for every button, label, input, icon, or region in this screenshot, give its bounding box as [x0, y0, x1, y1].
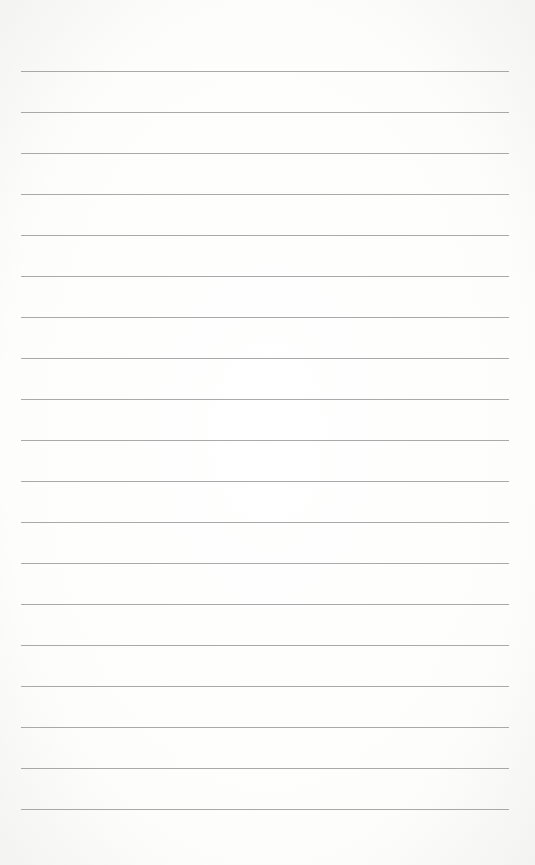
- ruled-line: [21, 481, 509, 482]
- ruled-line: [21, 604, 509, 605]
- ruled-line: [21, 686, 509, 687]
- ruled-line: [21, 645, 509, 646]
- ruled-line: [21, 112, 509, 113]
- ruled-line: [21, 153, 509, 154]
- lined-paper-page: [0, 0, 535, 865]
- ruled-line: [21, 317, 509, 318]
- ruled-line: [21, 768, 509, 769]
- ruled-line: [21, 809, 509, 810]
- ruled-line: [21, 440, 509, 441]
- ruled-line: [21, 522, 509, 523]
- ruled-line: [21, 358, 509, 359]
- ruled-line: [21, 235, 509, 236]
- ruled-line: [21, 194, 509, 195]
- ruled-line: [21, 399, 509, 400]
- ruled-line: [21, 727, 509, 728]
- ruled-line: [21, 276, 509, 277]
- ruled-line: [21, 71, 509, 72]
- ruled-line: [21, 563, 509, 564]
